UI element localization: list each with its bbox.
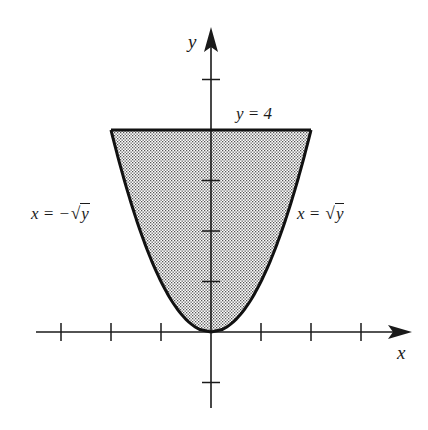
radicand: y — [335, 203, 345, 223]
x-axis-label: x — [397, 343, 405, 362]
right-curve-label: x = √y — [297, 205, 344, 222]
top-line-label: y = 4 — [236, 105, 272, 122]
top-line-equation: y = 4 — [236, 104, 272, 123]
radicand: y — [80, 203, 90, 223]
y-axis-label: y — [188, 32, 196, 51]
sqrt-icon: √ — [71, 204, 80, 223]
left-curve-label: x = −√y — [31, 205, 90, 222]
sqrt-icon: √ — [326, 204, 335, 223]
left-curve-prefix: x = − — [31, 204, 70, 223]
region-diagram: y x y = 4 x = −√y x = √y — [0, 0, 428, 430]
right-curve-prefix: x = — [297, 204, 325, 223]
sqrt-expression: √y — [325, 205, 345, 222]
sqrt-expression: √y — [70, 205, 90, 222]
